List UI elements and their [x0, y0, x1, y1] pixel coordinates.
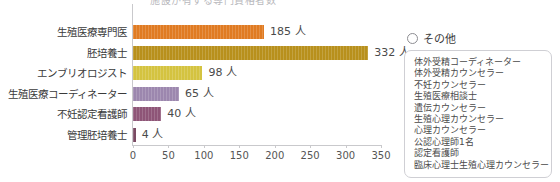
bar-row: エンブリオロジスト98 人 [0, 63, 395, 83]
list-item: 臨床心理士生殖心理カウンセラー [414, 160, 543, 171]
bar [133, 107, 161, 121]
bar-value-label: 185 人 [270, 22, 306, 42]
category-label: 胚培養士 [0, 43, 127, 63]
other-qualifications-list: 体外受精コーディネーター体外受精カウンセラー不妊カウンセラー生殖医療相談士遺伝カ… [404, 50, 552, 178]
tick-label: 100 [194, 150, 213, 161]
bar [133, 128, 136, 142]
tick-mark [310, 145, 311, 148]
other-panel-header[interactable]: その他 [404, 30, 552, 46]
bar-fill [133, 66, 202, 80]
category-label: 生殖医療専門医 [0, 22, 127, 42]
bar-value-label: 40 人 [167, 104, 196, 124]
bar [133, 25, 264, 39]
tick-mark [381, 145, 382, 148]
bar [133, 66, 202, 80]
bar-row: 生殖医療専門医185 人 [0, 22, 395, 42]
list-item: 生殖医療相談士 [414, 91, 543, 102]
bar-row: 生殖医療コーディネーター65 人 [0, 84, 395, 104]
tick-label: 0 [130, 150, 136, 161]
list-item: 認定看護師 [414, 148, 543, 159]
bar-fill [133, 87, 179, 101]
tick-mark [168, 145, 169, 148]
tick-mark [346, 145, 347, 148]
tick-mark [275, 145, 276, 148]
bar [133, 87, 179, 101]
list-item: 生殖心理カウンセラー [414, 114, 543, 125]
bar-fill [133, 25, 264, 39]
bar-row: 胚培養士332 人 [0, 43, 395, 63]
list-item: 公認心理師1名 [414, 137, 543, 148]
list-item: 体外受精コーディネーター [414, 57, 543, 68]
x-axis-ticks: 050100150200250300350 [0, 145, 395, 169]
list-item: 心理カウンセラー [414, 125, 543, 136]
bar-row: 不妊認定看護師40 人 [0, 104, 395, 124]
bar-row: 管理胚培養士4 人 [0, 125, 395, 145]
list-item: 不妊カウンセラー [414, 80, 543, 91]
tick-label: 200 [265, 150, 284, 161]
category-label: 不妊認定看護師 [0, 104, 127, 124]
tick-label: 50 [162, 150, 175, 161]
category-label: 管理胚培養士 [0, 125, 127, 145]
bar-value-label: 65 人 [185, 84, 214, 104]
bar-value-label: 4 人 [142, 125, 164, 145]
other-qualifications-panel: その他 体外受精コーディネーター体外受精カウンセラー不妊カウンセラー生殖医療相談… [404, 30, 552, 178]
list-item: 遺伝カウンセラー [414, 103, 543, 114]
bar-fill [133, 128, 136, 142]
radio-circle-icon[interactable] [407, 33, 418, 44]
other-panel-title: その他 [423, 30, 456, 46]
tick-label: 250 [301, 150, 320, 161]
list-item: 体外受精カウンセラー [414, 68, 543, 79]
tick-label: 300 [336, 150, 355, 161]
bar-value-label: 98 人 [208, 63, 237, 83]
tick-mark [133, 145, 134, 148]
category-label: 生殖医療コーディネーター [0, 84, 127, 104]
tick-label: 150 [230, 150, 249, 161]
tick-label: 350 [371, 150, 390, 161]
category-label: エンブリオロジスト [0, 63, 127, 83]
bar-fill [133, 107, 161, 121]
bar [133, 46, 368, 60]
tick-mark [239, 145, 240, 148]
bar-chart: 生殖医療専門医185 人胚培養士332 人エンブリオロジスト98 人生殖医療コー… [0, 0, 395, 182]
bar-fill [133, 46, 368, 60]
tick-mark [204, 145, 205, 148]
